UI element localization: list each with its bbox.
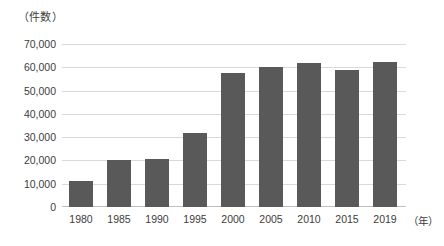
y-axis-tick-label: 30,000 xyxy=(4,131,56,143)
bar-chart: （件数） 70,00060,00050,00040,00030,00020,00… xyxy=(0,0,444,246)
x-axis-tick-label: 2019 xyxy=(366,213,404,225)
bar-slot xyxy=(252,44,290,207)
x-axis-tick-label: 2010 xyxy=(290,213,328,225)
x-axis-tick-label: 2005 xyxy=(252,213,290,225)
bar xyxy=(373,62,397,207)
bar-slot xyxy=(328,44,366,207)
x-axis-unit-label: （年） xyxy=(408,213,438,228)
x-axis-tick-label: 1985 xyxy=(100,213,138,225)
bar-series xyxy=(62,44,406,207)
y-axis-tick-label: 70,000 xyxy=(4,38,56,50)
bar-slot xyxy=(290,44,328,207)
x-axis-tick-labels: 198019851990199520002005201020152019 xyxy=(62,213,406,235)
y-axis-tick-label: 60,000 xyxy=(4,61,56,73)
bar xyxy=(69,181,93,207)
x-axis-tick-label: 1990 xyxy=(138,213,176,225)
bar xyxy=(221,73,245,207)
bar xyxy=(183,133,207,208)
bar xyxy=(297,63,321,207)
x-axis-tick-label: 1995 xyxy=(176,213,214,225)
y-axis-tick-label: 0 xyxy=(4,201,56,213)
y-axis-tick-label: 10,000 xyxy=(4,178,56,190)
y-axis-tick-label: 20,000 xyxy=(4,154,56,166)
bar xyxy=(145,159,169,207)
y-axis-tick-label: 50,000 xyxy=(4,85,56,97)
x-axis-tick-label: 2000 xyxy=(214,213,252,225)
plot-area xyxy=(62,44,406,207)
bar-slot xyxy=(176,44,214,207)
bar-slot xyxy=(62,44,100,207)
bar-slot xyxy=(366,44,404,207)
bar-slot xyxy=(100,44,138,207)
bar-slot xyxy=(214,44,252,207)
x-axis-tick-label: 2015 xyxy=(328,213,366,225)
bar xyxy=(259,67,283,207)
bar xyxy=(107,160,131,207)
bar xyxy=(335,70,359,207)
y-axis-tick-labels: 70,00060,00050,00040,00030,00020,00010,0… xyxy=(0,0,56,246)
bar-slot xyxy=(138,44,176,207)
x-axis-tick-label: 1980 xyxy=(62,213,100,225)
y-axis-tick-label: 40,000 xyxy=(4,108,56,120)
